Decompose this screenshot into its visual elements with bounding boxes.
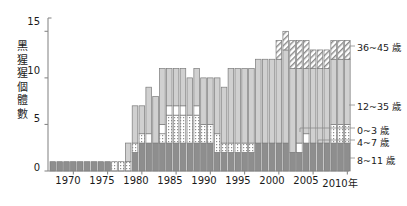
bar-segment [276, 59, 282, 143]
bar-segment [194, 115, 200, 143]
bar-segment [242, 69, 248, 144]
bar-segment [324, 50, 330, 69]
bar-segment [345, 59, 351, 124]
bar-segment [297, 69, 303, 144]
bar-segment [338, 143, 344, 171]
bar-segment [221, 143, 227, 152]
bar-segment [249, 152, 255, 171]
bar-segment [283, 143, 289, 171]
bar-segment [331, 143, 337, 171]
bar-segment [345, 41, 351, 60]
bar-segment [160, 69, 166, 125]
bar-segment [310, 143, 316, 171]
bar-segment [208, 143, 214, 171]
bar-segment [194, 69, 200, 106]
bar-segment [125, 143, 131, 162]
bar-segment [256, 59, 262, 143]
bar-segment [166, 106, 172, 115]
bar-segment [201, 124, 207, 143]
bar-segment [256, 143, 262, 171]
bar-segment [214, 152, 220, 171]
bar-segment [112, 162, 118, 171]
bar-segment [310, 69, 316, 144]
bar-segment [262, 59, 268, 143]
bar-segment [194, 143, 200, 171]
bar-segment [146, 87, 152, 134]
bar-segment [297, 152, 303, 171]
bar-segment [139, 134, 145, 143]
bar-segment [242, 143, 248, 152]
bar-segment [180, 106, 186, 115]
bar-group [50, 31, 350, 171]
bar-segment [77, 162, 83, 171]
bar-segment [249, 69, 255, 144]
bar-segment [187, 78, 193, 115]
bar-segment [249, 143, 255, 152]
bar-segment [160, 124, 166, 133]
bar-segment [71, 162, 77, 171]
bar-segment [160, 134, 166, 143]
bar-segment [214, 78, 220, 134]
chart-canvas: 黑 猩 猩 個 體 數 15 10 5 0 1970 1975 1980 198… [0, 0, 407, 206]
bar-segment [297, 41, 303, 69]
bar-segment [139, 106, 145, 134]
bar-segment [187, 143, 193, 171]
bar-segment [221, 87, 227, 143]
bar-segment [324, 143, 330, 171]
bar-segment [297, 143, 303, 152]
bar-segment [214, 134, 220, 153]
bar-segment [57, 162, 63, 171]
bar-segment [139, 143, 145, 171]
bar-segment [194, 106, 200, 115]
bar-segment [331, 41, 337, 60]
bar-segment [173, 69, 179, 106]
bar-segment [91, 162, 97, 171]
bar-segment [228, 152, 234, 171]
bar-segment [269, 143, 275, 171]
bar-segment [180, 69, 186, 106]
bar-segment [146, 134, 152, 143]
bar-segment [180, 143, 186, 171]
bar-segment [242, 152, 248, 171]
bar-segment [160, 143, 166, 171]
bar-segment [317, 50, 323, 69]
bar-segment [221, 152, 227, 171]
bar-segment [283, 50, 289, 143]
bar-segment [310, 50, 316, 69]
bar-segment [146, 143, 152, 171]
bar-segment [187, 115, 193, 143]
bar-segment [303, 143, 309, 171]
bar-segment [235, 143, 241, 152]
bar-segment [166, 69, 172, 106]
bar-segment [173, 115, 179, 143]
bar-segment [324, 69, 330, 144]
bar-segment [235, 69, 241, 144]
bar-segment [208, 124, 214, 143]
bar-segment [338, 59, 344, 124]
bar-segment [345, 143, 351, 171]
bar-segment [153, 97, 159, 144]
bar-segment [290, 41, 296, 69]
bar-segment [119, 162, 125, 171]
bar-segment [201, 143, 207, 171]
bar-segment [290, 152, 296, 171]
bar-segment [166, 115, 172, 143]
bar-segment [235, 152, 241, 171]
bar-segment [132, 106, 138, 143]
bar-segment [153, 143, 159, 171]
chart-plot-svg [0, 0, 407, 206]
bar-segment [64, 162, 70, 171]
bar-segment [166, 143, 172, 171]
bar-segment [276, 41, 282, 60]
bar-segment [276, 143, 282, 171]
bar-segment [338, 41, 344, 60]
bar-segment [208, 78, 214, 125]
bar-segment [290, 69, 296, 153]
bar-segment [331, 59, 337, 124]
bar-segment [132, 143, 138, 152]
bar-segment [132, 152, 138, 171]
bar-segment [98, 162, 104, 171]
bar-segment [50, 162, 56, 171]
bar-segment [228, 143, 234, 152]
bar-segment [283, 31, 289, 50]
